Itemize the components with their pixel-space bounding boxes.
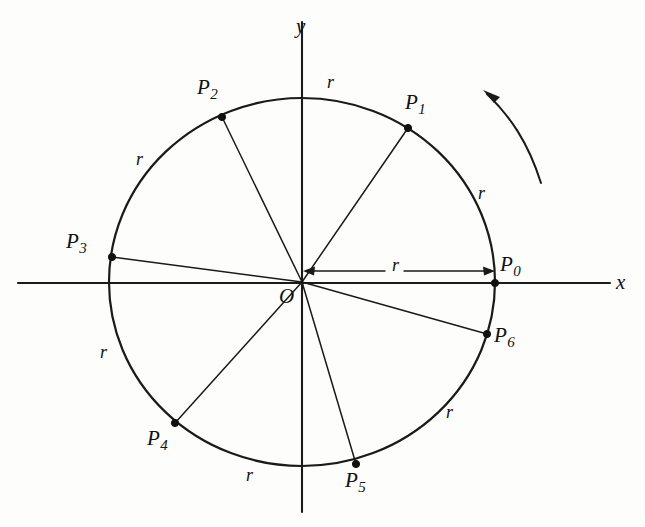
arc-label-r-bottom: r <box>246 466 253 484</box>
point-dot-p5 <box>352 460 359 467</box>
point-dot-p2 <box>218 113 225 120</box>
radius-measure-label: r <box>392 256 399 274</box>
arc-label-r-upper-left: r <box>136 150 143 168</box>
arc-label-r-lower-right: r <box>446 403 453 421</box>
point-label-p3: P3 <box>66 231 87 256</box>
circle-radian-diagram <box>0 0 645 527</box>
x-axis-label: x <box>616 272 625 293</box>
spoke-to-p3 <box>112 257 302 282</box>
y-axis-label: y <box>296 16 305 37</box>
point-label-p4: P4 <box>147 428 168 453</box>
arc-label-r-upper-right: r <box>478 184 485 202</box>
spoke-to-p6 <box>302 282 487 334</box>
radius-measure-right-arrowhead <box>483 267 495 276</box>
rotation-direction-arrowhead <box>483 90 500 103</box>
point-dot-p4 <box>171 419 178 426</box>
point-dot-p3 <box>108 253 115 260</box>
rotation-direction-arc <box>487 94 541 183</box>
point-dot-p1 <box>404 124 411 131</box>
point-label-p1: P1 <box>405 92 426 117</box>
figure-canvas: y x O P0 P1 P2 P3 P4 P5 P6 r r r r r r r <box>0 0 645 527</box>
point-label-p0: P0 <box>500 254 521 279</box>
radius-measure-left-arrowhead <box>303 267 315 276</box>
point-dot-p0 <box>491 279 498 286</box>
origin-label: O <box>279 286 294 307</box>
point-label-p5: P5 <box>345 470 366 495</box>
arc-label-r-lower-left: r <box>100 343 107 361</box>
arc-label-r-top: r <box>327 73 334 91</box>
point-label-p6: P6 <box>494 325 515 350</box>
spoke-to-p5 <box>302 282 356 464</box>
point-label-p2: P2 <box>197 77 218 102</box>
point-dot-p6 <box>483 330 490 337</box>
spoke-to-p2 <box>222 117 302 282</box>
